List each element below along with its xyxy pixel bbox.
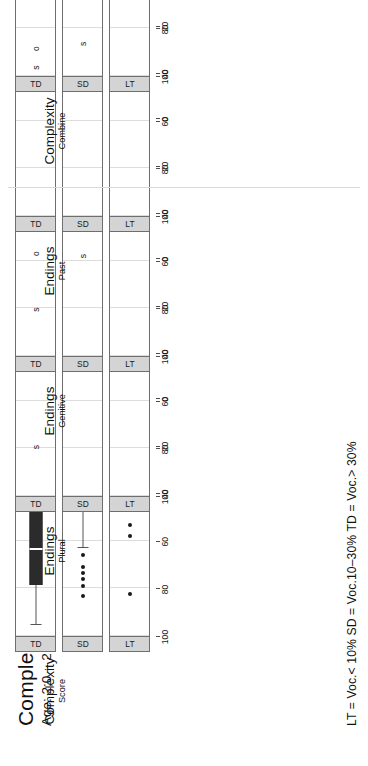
- axis-tick-label: 60: [160, 117, 170, 127]
- axis-tick-label: 100: [160, 350, 170, 364]
- panel-strip-lt: LT: [110, 636, 149, 651]
- axis-tick-label: 80: [160, 25, 170, 35]
- figure-canvas: Complexity Age: 2;0 – 2;5 LT = Voc.< 10%…: [0, 0, 368, 766]
- panel-strip-sd: SD: [63, 636, 102, 651]
- gridline: [63, 495, 102, 496]
- panel-strip-label: TD: [30, 219, 42, 229]
- marker-s: s: [31, 66, 40, 70]
- panel-strip-label: SD: [76, 359, 88, 369]
- axis-tick-label: 60: [160, 397, 170, 407]
- gridline: [63, 260, 102, 261]
- panel-strip-label: TD: [30, 79, 42, 89]
- axis-tick-label: 100: [160, 630, 170, 644]
- panel-strip-label: SD: [76, 219, 88, 229]
- gridline: [110, 400, 149, 401]
- figure-root: Complexity Age: 2;0 – 2;5 LT = Voc.< 10%…: [0, 0, 368, 766]
- gridline: [110, 355, 149, 356]
- marker-s: s: [78, 254, 87, 258]
- axis-tick-label: 60: [160, 537, 170, 547]
- panel-strip-lt: LT: [110, 216, 149, 231]
- gridline: [16, 27, 55, 28]
- panel-strip-label: TD: [30, 499, 42, 509]
- boxplot-outlier: [81, 577, 85, 581]
- panel-stack: TDsoSDsoLTso: [15, 0, 156, 92]
- panel-strip-td: TD: [16, 496, 55, 511]
- gridline: [63, 635, 102, 636]
- panel-strip-sd: SD: [63, 76, 102, 91]
- gridline: [63, 167, 102, 168]
- axis-tick-label: 100: [160, 210, 170, 224]
- gridline: [63, 120, 102, 121]
- gridline: [63, 447, 102, 448]
- x-axis: 020406080100: [156, 0, 172, 92]
- boxplot-outlier: [81, 565, 85, 569]
- panel-group-label: EndingsPast: [43, 234, 68, 308]
- panel-strip-td: TD: [16, 636, 55, 651]
- boxplot-outlier: [128, 592, 132, 596]
- axis-tick-label: 80: [160, 165, 170, 175]
- boxplot-outlier: [128, 534, 132, 538]
- gridline: [63, 27, 102, 28]
- axis-tick-label: 80: [160, 445, 170, 455]
- panel-group-title: Endings: [43, 374, 57, 448]
- marker-s: s: [31, 445, 40, 449]
- panel-group-label: ComplexityCombine: [43, 94, 68, 168]
- panel-strip-lt: LT: [110, 356, 149, 371]
- gridline: [110, 447, 149, 448]
- panel-strip-lt: LT: [110, 76, 149, 91]
- panel-strip-sd: SD: [63, 356, 102, 371]
- panel-strip-label: TD: [30, 359, 42, 369]
- gridline: [110, 635, 149, 636]
- gridline: [16, 355, 55, 356]
- panel-strip-sd: SD: [63, 216, 102, 231]
- boxplot-outlier: [81, 553, 85, 557]
- axis-tick-label: 80: [160, 305, 170, 315]
- gridline: [63, 75, 102, 76]
- gridline: [110, 540, 149, 541]
- panel-group-label: EndingsPlural: [43, 514, 68, 588]
- gridline: [110, 120, 149, 121]
- boxplot-outlier: [81, 584, 85, 588]
- boxplot-whisker-cap: [30, 624, 41, 625]
- gridline: [63, 400, 102, 401]
- gridline: [110, 495, 149, 496]
- legend-note: LT = Voc.< 10% SD = Voc.10–30% TD = Voc.…: [345, 441, 359, 726]
- gridline: [16, 75, 55, 76]
- boxplot-whisker-cap: [77, 547, 88, 548]
- panel-strip-label: LT: [125, 79, 135, 89]
- panel-strip-label: LT: [125, 639, 135, 649]
- panel-strip-lt: LT: [110, 496, 149, 511]
- panel-strip-sd: SD: [63, 496, 102, 511]
- panel-group-subtitle: Combine: [57, 94, 68, 168]
- gridline: [63, 355, 102, 356]
- gridline: [110, 27, 149, 28]
- panel-strip-label: TD: [30, 639, 42, 649]
- boxplot-median: [29, 548, 42, 550]
- gridline: [63, 215, 102, 216]
- panel-group-title: Endings: [43, 514, 57, 588]
- panel-group-label: ComplexityScore: [43, 654, 68, 728]
- panel-group-title: Endings: [43, 234, 57, 308]
- panel-strip-label: LT: [125, 219, 135, 229]
- panel-strip-label: SD: [76, 499, 88, 509]
- panel-group-subtitle: Past: [57, 234, 68, 308]
- panel-group-title: Complexity: [43, 654, 57, 728]
- plot-panel: LTso: [109, 0, 150, 92]
- panel-strip-label: SD: [76, 79, 88, 89]
- panel-strip-label: SD: [76, 639, 88, 649]
- gridline: [110, 587, 149, 588]
- panel-strip-td: TD: [16, 216, 55, 231]
- plot-area: so: [110, 0, 149, 76]
- panel-strip-td: TD: [16, 356, 55, 371]
- axis-tick-label: 100: [160, 490, 170, 504]
- marker-o: o: [31, 251, 39, 256]
- gridline: [16, 215, 55, 216]
- marker-o: o: [31, 46, 39, 51]
- panel-strip-label: LT: [125, 359, 135, 369]
- panel-group-subtitle: Plural: [57, 514, 68, 588]
- boxplot-outlier: [81, 594, 85, 598]
- plot-panel: SDso: [62, 0, 103, 92]
- gridline: [110, 260, 149, 261]
- plot-area: so: [63, 0, 102, 76]
- boxplot-outlier: [81, 571, 85, 575]
